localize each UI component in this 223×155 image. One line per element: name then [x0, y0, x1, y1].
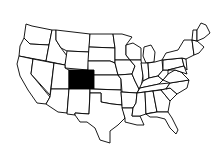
state-kansas: [94, 75, 121, 90]
us-map: [0, 0, 223, 155]
state-new-england-south: [192, 40, 204, 55]
state-new-york: [162, 40, 194, 60]
state-maine: [197, 23, 210, 41]
state-florida: [146, 112, 178, 134]
state-colorado-highlighted: [69, 70, 94, 89]
state-north-dakota: [89, 34, 115, 48]
state-wyoming: [65, 51, 89, 70]
state-michigan: [143, 45, 155, 63]
us-map-svg: [0, 0, 223, 155]
state-wisconsin: [126, 43, 141, 60]
state-new-mexico: [67, 89, 90, 115]
state-vermont-new-hampshire: [192, 30, 197, 41]
